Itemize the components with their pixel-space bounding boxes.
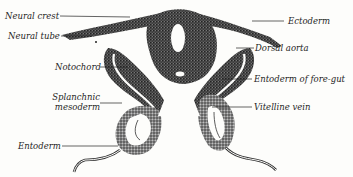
label-vitelline-vein: Vitelline vein — [254, 103, 311, 112]
label-entoderm: Entoderm — [18, 142, 61, 151]
neural-canal — [171, 24, 185, 52]
label-splanchnic-mesoderm: Splanchnic mesoderm — [48, 92, 100, 112]
neural-tube-mass — [146, 9, 216, 84]
entoderm-strands — [74, 148, 276, 172]
fore-gut-lumen — [158, 86, 200, 116]
embryo-section-diagram: Neural crest Neural tube Notochord Splan… — [0, 0, 353, 177]
label-notochord: Notochord — [55, 63, 101, 72]
label-ectoderm: Ectoderm — [288, 17, 330, 26]
label-neural-crest: Neural crest — [5, 12, 59, 21]
label-splanchnic-line1: Splanchnic — [48, 92, 100, 102]
label-entoderm-of-fore-gut: Entoderm of fore-gut — [254, 75, 345, 84]
label-splanchnic-line2: mesoderm — [48, 102, 100, 112]
label-neural-tube: Neural tube — [8, 32, 60, 41]
label-dorsal-aorta: Dorsal aorta — [255, 44, 309, 53]
